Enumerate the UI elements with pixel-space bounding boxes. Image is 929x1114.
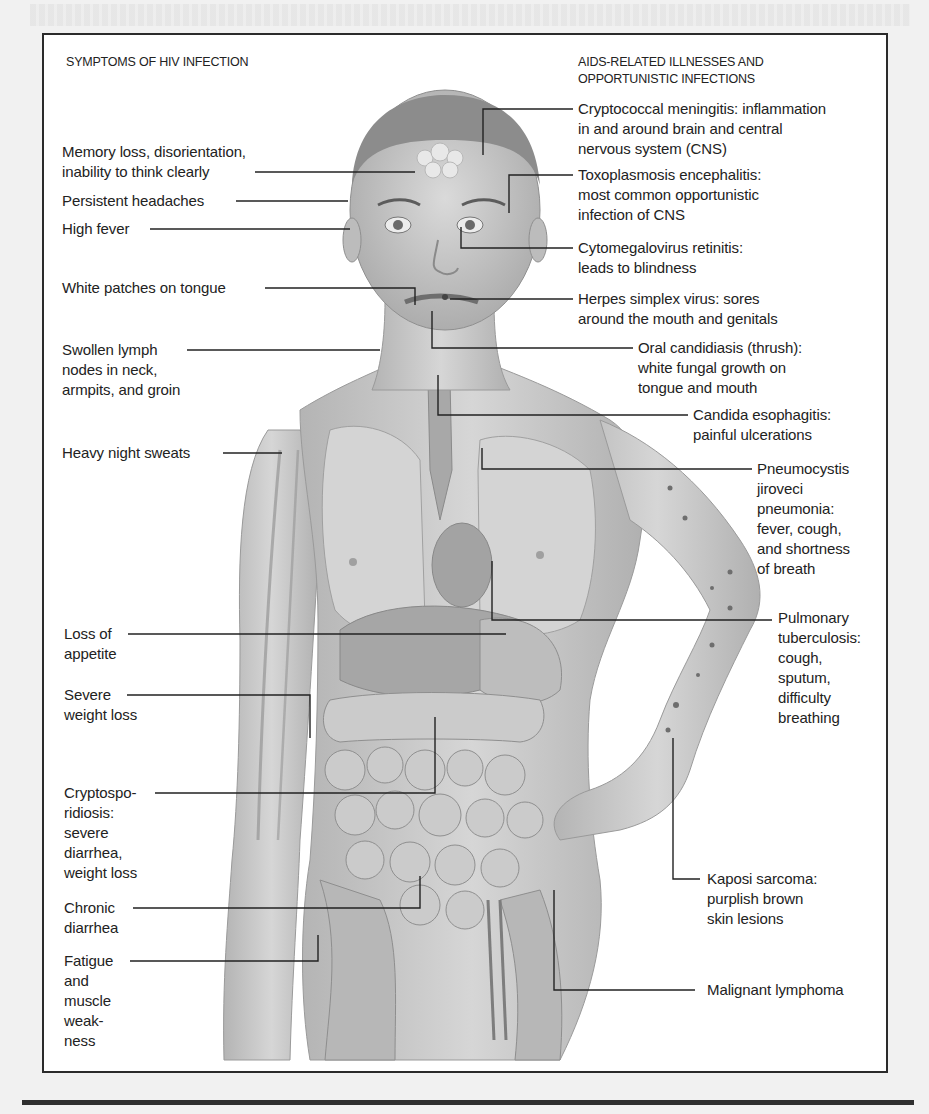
label-cryptococcal-meningitis: Cryptococcal meningitis: inflammation in… — [578, 99, 826, 159]
label-line: inability to think clearly — [62, 162, 246, 182]
head — [343, 90, 547, 330]
label-line: difficulty — [778, 688, 861, 708]
label-line: nodes in neck, — [62, 360, 180, 380]
label-line: Malignant lymphoma — [707, 980, 844, 1000]
illnesses-heading: AIDS-RELATED ILLNESSES AND OPPORTUNISTIC… — [578, 54, 764, 88]
illnesses-heading-line-2: OPPORTUNISTIC INFECTIONS — [578, 71, 764, 88]
label-line: Chronic — [64, 898, 118, 918]
label-line: nervous system (CNS) — [578, 139, 826, 159]
label-line: White patches on tongue — [62, 278, 226, 298]
label-line: and — [64, 971, 113, 991]
label-line: armpits, and groin — [62, 380, 180, 400]
label-toxoplasmosis: Toxoplasmosis encephalitis: most common … — [578, 165, 761, 225]
label-line: severe — [64, 823, 137, 843]
label-cytomegalovirus: Cytomegalovirus retinitis: leads to blin… — [578, 238, 743, 278]
label-line: tongue and mouth — [638, 378, 802, 398]
label-line: ness — [64, 1031, 113, 1051]
torso — [300, 360, 644, 1060]
label-line: diarrhea — [64, 918, 118, 938]
label-cryptosporidiosis: Cryptospo- ridiosis: severe diarrhea, we… — [64, 783, 137, 883]
label-line: ridiosis: — [64, 803, 137, 823]
label-line: white fungal growth on — [638, 358, 802, 378]
symptoms-heading: SYMPTOMS OF HIV INFECTION — [66, 54, 248, 71]
label-line: diarrhea, — [64, 843, 137, 863]
label-chronic-diarrhea: Chronic diarrhea — [64, 898, 118, 938]
label-herpes-simplex: Herpes simplex virus: sores around the m… — [578, 289, 778, 329]
label-line: Heavy night sweats — [62, 443, 190, 463]
label-line: cough, — [778, 648, 861, 668]
label-line: Pulmonary — [778, 608, 861, 628]
label-line: High fever — [62, 219, 129, 239]
label-line: Severe — [64, 685, 137, 705]
label-line: weak- — [64, 1011, 113, 1031]
label-oral-candidiasis: Oral candidiasis (thrush): white fungal … — [638, 338, 802, 398]
label-line: around the mouth and genitals — [578, 309, 778, 329]
label-night-sweats: Heavy night sweats — [62, 443, 190, 463]
label-line: weight loss — [64, 705, 137, 725]
label-line: Persistent headaches — [62, 191, 204, 211]
label-line: Kaposi sarcoma: — [707, 869, 817, 889]
label-line: in and around brain and central — [578, 119, 826, 139]
label-line: leads to blindness — [578, 258, 743, 278]
label-high-fever: High fever — [62, 219, 129, 239]
label-line: weight loss — [64, 863, 137, 883]
label-pulmonary-tuberculosis: Pulmonary tuberculosis: cough, sputum, d… — [778, 608, 861, 728]
label-line: Cytomegalovirus retinitis: — [578, 238, 743, 258]
label-line: Memory loss, disorientation, — [62, 142, 246, 162]
label-fatigue: Fatigue and muscle weak- ness — [64, 951, 113, 1051]
label-persistent-headaches: Persistent headaches — [62, 191, 204, 211]
label-memory-loss: Memory loss, disorientation, inability t… — [62, 142, 246, 182]
label-line: Loss of — [64, 624, 117, 644]
label-malignant-lymphoma: Malignant lymphoma — [707, 980, 844, 1000]
label-line: Pneumocystis — [757, 459, 850, 479]
label-line: Swollen lymph — [62, 340, 180, 360]
label-line: infection of CNS — [578, 205, 761, 225]
label-line: of breath — [757, 559, 850, 579]
illnesses-heading-line-1: AIDS-RELATED ILLNESSES AND — [578, 54, 764, 71]
label-line: skin lesions — [707, 909, 817, 929]
label-line: appetite — [64, 644, 117, 664]
label-swollen-lymph: Swollen lymph nodes in neck, armpits, an… — [62, 340, 180, 400]
label-line: painful ulcerations — [693, 425, 831, 445]
label-pneumocystis-pneumonia: Pneumocystis jiroveci pneumonia: fever, … — [757, 459, 850, 579]
label-line: fever, cough, — [757, 519, 850, 539]
label-line: Toxoplasmosis encephalitis: — [578, 165, 761, 185]
label-line: muscle — [64, 991, 113, 1011]
label-line: jiroveci — [757, 479, 850, 499]
label-white-patches: White patches on tongue — [62, 278, 226, 298]
label-line: tuberculosis: — [778, 628, 861, 648]
label-line: Cryptospo- — [64, 783, 137, 803]
label-kaposi-sarcoma: Kaposi sarcoma: purplish brown skin lesi… — [707, 869, 817, 929]
label-severe-weight-loss: Severe weight loss — [64, 685, 137, 725]
label-line: sputum, — [778, 668, 861, 688]
label-line: purplish brown — [707, 889, 817, 909]
label-line: Herpes simplex virus: sores — [578, 289, 778, 309]
label-line: Candida esophagitis: — [693, 405, 831, 425]
label-line: Fatigue — [64, 951, 113, 971]
label-line: Cryptococcal meningitis: inflammation — [578, 99, 826, 119]
label-loss-of-appetite: Loss of appetite — [64, 624, 117, 664]
label-candida-esophagitis: Candida esophagitis: painful ulcerations — [693, 405, 831, 445]
label-line: breathing — [778, 708, 861, 728]
label-line: Oral candidiasis (thrush): — [638, 338, 802, 358]
label-line: pneumonia: — [757, 499, 850, 519]
label-line: and shortness — [757, 539, 850, 559]
label-line: most common opportunistic — [578, 185, 761, 205]
